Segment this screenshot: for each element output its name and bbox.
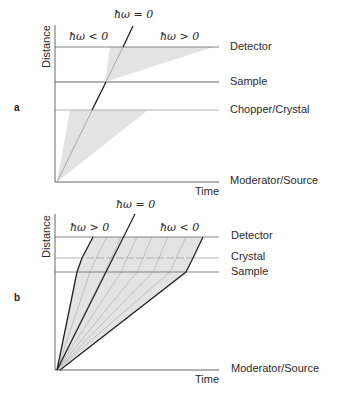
panel-a-upper-fan <box>105 47 213 82</box>
panel-b-hw-left-label: ħω > 0 <box>70 221 109 234</box>
panel-b-crystal-label: Crystal <box>231 251 265 262</box>
panel-a-chopper-label: Chopper/Crystal <box>230 104 309 115</box>
panel-b-hw-right-label: ħω < 0 <box>160 221 199 234</box>
hw-zero-text: ħω = 0 <box>116 198 155 211</box>
panel-b-detector-label: Detector <box>231 230 273 241</box>
hw-left-text: ħω < 0 <box>69 30 108 43</box>
panel-a-sample-label: Sample <box>230 76 267 87</box>
hw-left-text: ħω > 0 <box>70 221 109 234</box>
panel-a-label: a <box>14 102 20 113</box>
panel-b-x-axis-label: Time <box>195 374 219 385</box>
panel-a-x-axis-label: Time <box>195 186 219 197</box>
panel-a-plot <box>55 25 219 182</box>
hw-right-text: ħω > 0 <box>160 30 199 43</box>
hw-right-text: ħω < 0 <box>160 221 199 234</box>
panel-b-source-label: Moderator/Source <box>231 363 319 374</box>
panel-a-elastic-ray-black-1 <box>92 82 106 110</box>
panel-b-plot <box>55 214 219 370</box>
panel-a-y-axis-label: Distance <box>40 25 52 68</box>
panel-a-hw-right-label: ħω > 0 <box>160 30 199 43</box>
panel-b-y-axis-label: Distance <box>40 215 52 258</box>
hw-zero-text: ħω = 0 <box>114 8 153 21</box>
panel-b-label: b <box>14 292 20 303</box>
panel-b-fan <box>57 237 203 370</box>
panel-a-hw-left-label: ħω < 0 <box>69 30 108 43</box>
panel-a-hw-zero-label: ħω = 0 <box>114 8 153 21</box>
panel-a-lower-fan <box>57 110 148 182</box>
panel-b-sample-label: Sample <box>231 266 268 277</box>
panel-b-hw-zero-label: ħω = 0 <box>116 198 155 211</box>
panel-a-source-label: Moderator/Source <box>230 175 318 186</box>
panel-a-detector-label: Detector <box>230 41 272 52</box>
panel-a-elastic-ray-black-2 <box>123 26 133 47</box>
